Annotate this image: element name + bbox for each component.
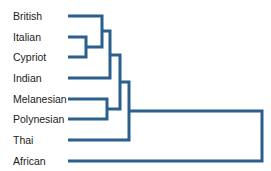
branch-melanesian-polynesian (68, 99, 107, 119)
dendrogram: British Italian Cypriot Indian Melanesia… (0, 0, 271, 171)
branch-italian-cypriot (68, 37, 86, 57)
dendrogram-branches (0, 0, 271, 171)
